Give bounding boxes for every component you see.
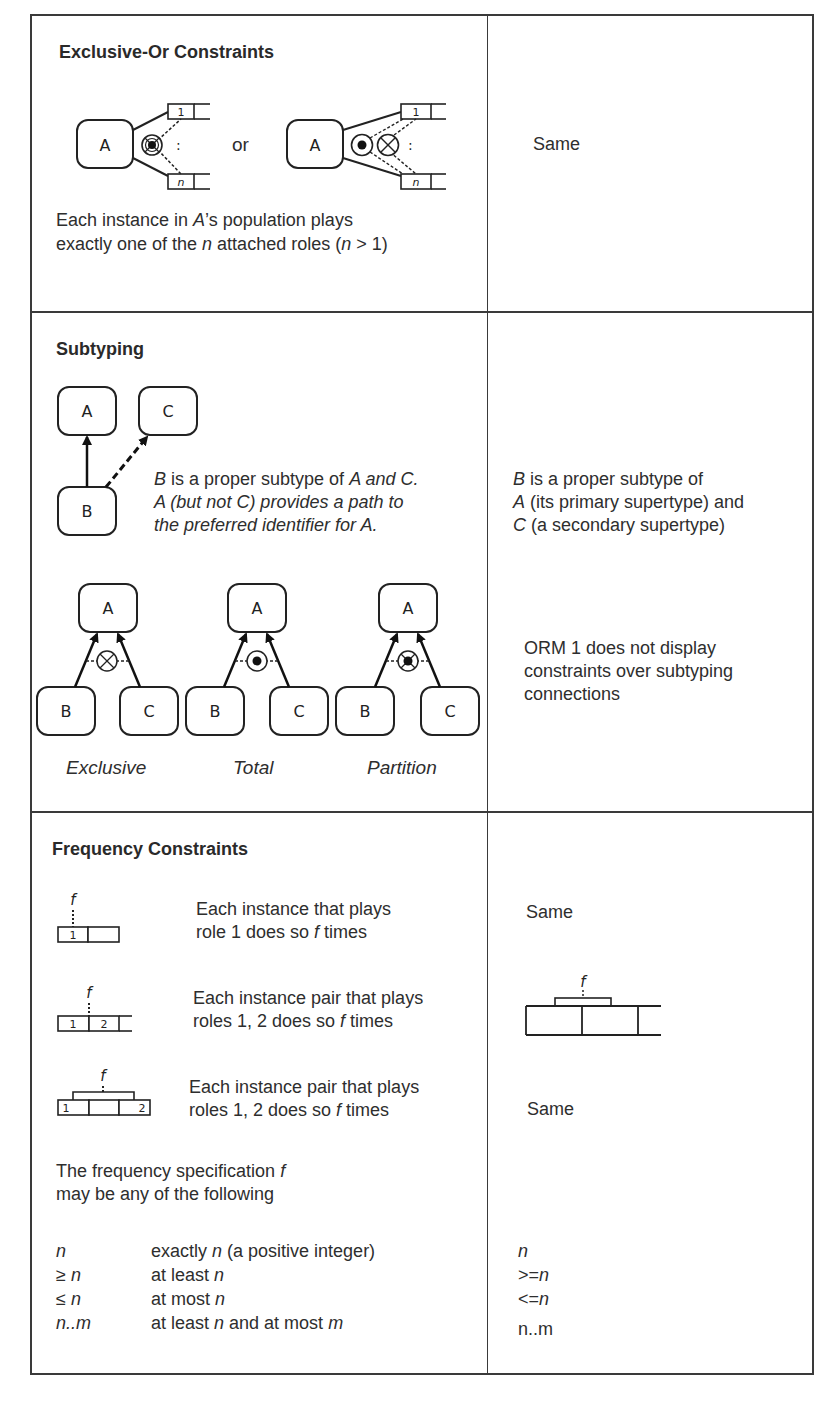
frequency-orm1-same-3: Same: [527, 1098, 574, 1121]
svg-text:f: f: [70, 891, 78, 909]
frequency-non-adjacent-roles-diagram: f 1 2: [58, 1067, 150, 1115]
svg-text:f: f: [100, 1067, 108, 1085]
orm1-spec-at-most: <=n: [518, 1288, 553, 1312]
svg-text:2: 2: [101, 1018, 108, 1031]
frequency-two-role-spanning-diagram: f 1 2: [58, 984, 132, 1031]
orm1-spec-range: n..m: [518, 1318, 553, 1342]
orm1-frequency-diagram: f: [526, 973, 661, 1035]
orm1-spec-exact: n: [518, 1240, 553, 1264]
frequency-example-2-desc: Each instance pair that plays roles 1, 2…: [193, 987, 423, 1033]
svg-text:f: f: [86, 984, 94, 1002]
frequency-single-role-diagram: f 1: [58, 891, 119, 942]
frequency-example-3-desc: Each instance pair that plays roles 1, 2…: [189, 1076, 419, 1122]
frequency-orm1-same-1: Same: [526, 901, 573, 924]
frequency-spec-intro: The frequency specification f may be any…: [56, 1160, 285, 1206]
frequency-example-1-desc: Each instance that plays role 1 does so …: [196, 898, 391, 944]
svg-text:1: 1: [63, 1102, 70, 1115]
orm1-spec-list: n >=n <=n n..m: [518, 1240, 553, 1342]
svg-text:f: f: [580, 973, 588, 991]
svg-text:1: 1: [70, 1018, 77, 1031]
svg-text:2: 2: [139, 1102, 146, 1115]
orm1-spec-at-least: >=n: [518, 1264, 553, 1288]
svg-text:1: 1: [70, 929, 77, 942]
